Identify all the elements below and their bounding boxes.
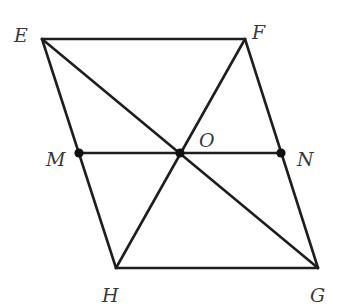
label-O: O: [199, 129, 215, 151]
point-N: [276, 148, 285, 157]
label-H: H: [101, 284, 119, 306]
label-M: M: [45, 148, 66, 170]
label-F: F: [251, 21, 266, 43]
point-M: [74, 148, 83, 157]
label-E: E: [13, 24, 28, 46]
point-O: [175, 148, 184, 157]
diagram-canvas: E F O M N H G: [0, 0, 339, 307]
parallelogram-diagram: E F O M N H G: [0, 0, 339, 307]
label-G: G: [310, 284, 325, 306]
label-N: N: [296, 148, 315, 170]
